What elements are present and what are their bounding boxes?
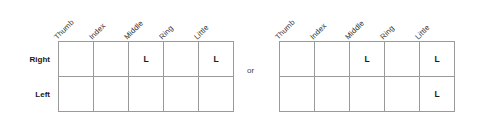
cell-right-ring[interactable] [385, 42, 420, 77]
column-header-thumb-label: Thumb [273, 18, 297, 42]
cell-mark: L [434, 90, 439, 99]
table-row: L L [280, 42, 455, 77]
cell-mark: L [143, 55, 148, 64]
finger-marking-figure: Thumb Index Middle Ring Little Right Lef… [0, 0, 477, 125]
cell-left-middle[interactable] [350, 77, 385, 112]
right-column-headers: Thumb Index Middle Ring Little [279, 5, 454, 41]
right-option-table: L L [279, 41, 455, 112]
cell-right-thumb[interactable] [280, 42, 315, 77]
column-header-little: Little [198, 5, 232, 41]
left-column-headers: Thumb Index Middle Ring Little [58, 5, 233, 41]
cell-mark: L [213, 55, 218, 64]
table-row: L [280, 77, 455, 112]
cell-right-index[interactable] [315, 42, 350, 77]
row-label-right: Right [0, 55, 50, 64]
column-header-thumb-label: Thumb [52, 18, 76, 42]
cell-right-index[interactable] [94, 42, 129, 77]
cell-right-little[interactable]: L [199, 42, 234, 77]
column-header-little: Little [419, 5, 453, 41]
cell-left-index[interactable] [94, 77, 129, 112]
cell-right-middle[interactable]: L [129, 42, 164, 77]
table-row [59, 77, 234, 112]
cell-mark: L [434, 55, 439, 64]
cell-right-ring[interactable] [164, 42, 199, 77]
cell-left-middle[interactable] [129, 77, 164, 112]
table-row: L L [59, 42, 234, 77]
cell-left-thumb[interactable] [59, 77, 94, 112]
cell-left-ring[interactable] [164, 77, 199, 112]
cell-left-thumb[interactable] [280, 77, 315, 112]
row-label-left: Left [0, 90, 50, 99]
cell-mark: L [364, 55, 369, 64]
left-option-table: L L [58, 41, 234, 112]
cell-right-little[interactable]: L [420, 42, 455, 77]
cell-left-index[interactable] [315, 77, 350, 112]
cell-left-ring[interactable] [385, 77, 420, 112]
cell-right-thumb[interactable] [59, 42, 94, 77]
cell-left-little[interactable]: L [420, 77, 455, 112]
separator-or: or [247, 66, 254, 75]
cell-left-little[interactable] [199, 77, 234, 112]
cell-right-middle[interactable]: L [350, 42, 385, 77]
